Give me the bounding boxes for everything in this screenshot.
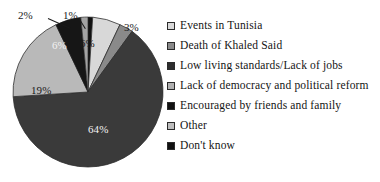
legend-item-label: Don't know bbox=[180, 140, 235, 152]
legend-item-other[interactable]: Other bbox=[167, 116, 377, 136]
legend-item-label: Encouraged by friends and family bbox=[180, 100, 341, 112]
legend-swatch-icon bbox=[167, 82, 175, 90]
slice-label-encouraged-by-friends: 6% bbox=[52, 40, 67, 51]
legend-swatch-icon bbox=[167, 122, 175, 130]
slice-label-death-of-khaled-said: 3% bbox=[124, 22, 139, 33]
chart-legend: Events in Tunisia Death of Khaled Said L… bbox=[167, 16, 377, 156]
legend-item-label: Events in Tunisia bbox=[180, 20, 262, 32]
slice-label-dont-know: 1% bbox=[63, 10, 78, 21]
legend-item-encouraged-by-friends[interactable]: Encouraged by friends and family bbox=[167, 96, 377, 116]
slice-label-events-in-tunisia: 6% bbox=[80, 38, 95, 49]
legend-swatch-icon bbox=[167, 102, 175, 110]
legend-item-label: Lack of democracy and political reform bbox=[180, 80, 369, 92]
legend-item-death-of-khaled-said[interactable]: Death of Khaled Said bbox=[167, 36, 377, 56]
legend-swatch-icon bbox=[167, 142, 175, 150]
legend-swatch-icon bbox=[167, 62, 175, 70]
slice-label-other: 2% bbox=[18, 10, 33, 21]
legend-item-label: Low living standards/Lack of jobs bbox=[180, 60, 343, 72]
slice-label-low-living-standards: 64% bbox=[88, 124, 108, 135]
legend-swatch-icon bbox=[167, 22, 175, 30]
legend-item-label: Death of Khaled Said bbox=[180, 40, 282, 52]
pie-chart-figure: 64% 19% 6% 6% 2% 1% 3% Events in Tunisia… bbox=[0, 0, 380, 182]
slice-label-lack-of-democracy: 19% bbox=[31, 85, 51, 96]
legend-item-dont-know[interactable]: Don't know bbox=[167, 136, 377, 156]
legend-item-low-living-standards[interactable]: Low living standards/Lack of jobs bbox=[167, 56, 377, 76]
legend-item-lack-of-democracy[interactable]: Lack of democracy and political reform bbox=[167, 76, 377, 96]
legend-item-events-in-tunisia[interactable]: Events in Tunisia bbox=[167, 16, 377, 36]
legend-swatch-icon bbox=[167, 42, 175, 50]
legend-item-label: Other bbox=[180, 120, 207, 132]
